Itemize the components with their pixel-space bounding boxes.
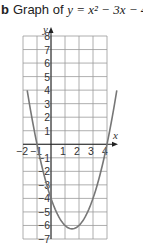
y-tick-label: 8 [44,30,50,42]
y-tick-label: 5 [44,71,50,83]
y-tick-label: 2 [44,111,50,123]
x-tick-label: 1 [60,145,66,157]
x-axis-label: x [112,129,118,141]
x-axis-arrow-icon [112,142,118,147]
y-tick-label: −4 [38,192,50,204]
x-tick-label: −1 [30,145,42,157]
y-tick-label: 6 [44,57,50,69]
x-tick-label: 3 [88,145,94,157]
y-tick-label: 4 [44,84,50,96]
x-tick-label: −2 [16,145,28,157]
y-tick-label: 3 [44,98,50,110]
x-tick-label: 2 [74,145,80,157]
y-tick-label: 7 [44,44,50,56]
parabola-chart: yx87654321−1−2−3−4−5−6−7−2−11234 [0,0,143,249]
y-tick-label: 1 [44,125,50,137]
y-tick-label: −6 [38,219,50,231]
y-tick-label: −7 [38,233,50,245]
y-tick-label: −5 [38,206,50,218]
